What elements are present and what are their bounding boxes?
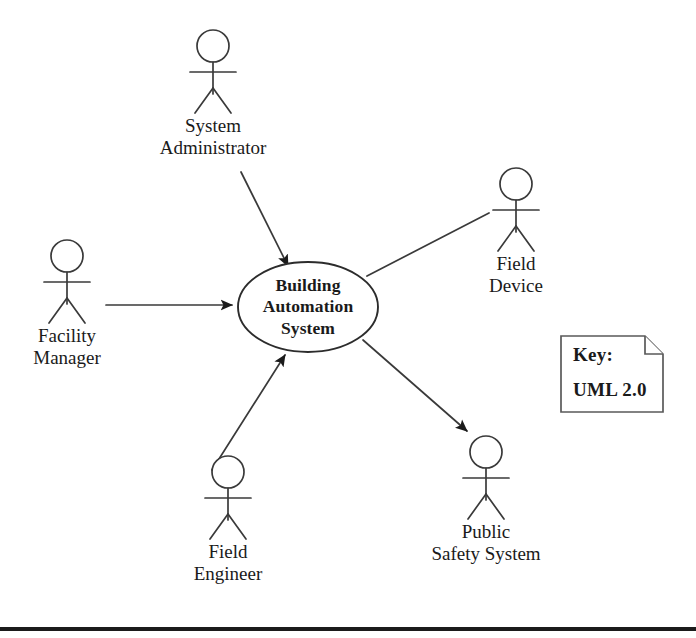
note-key-title: Key: bbox=[573, 344, 613, 366]
actor-figure-field-device[interactable] bbox=[493, 168, 539, 251]
use-case-label: Building Automation System bbox=[238, 275, 378, 339]
connector-system-to-public-safety-system[interactable] bbox=[363, 340, 467, 431]
footer-rule bbox=[0, 627, 696, 631]
actor-figure-public-safety-system[interactable] bbox=[463, 436, 509, 519]
actor-label-field-engineer: Field Engineer bbox=[128, 541, 328, 585]
actor-figure-facility-manager[interactable] bbox=[44, 240, 90, 323]
connector-system-administrator-to-system[interactable] bbox=[241, 172, 288, 266]
uml-use-case-diagram: Building Automation System System Admini… bbox=[0, 0, 696, 638]
actor-label-facility-manager: Facility Manager bbox=[0, 325, 167, 369]
connector-field-engineer-to-system[interactable] bbox=[212, 355, 285, 470]
actor-figure-field-engineer[interactable] bbox=[205, 456, 251, 539]
actor-label-field-device: Field Device bbox=[416, 253, 616, 297]
actor-label-system-administrator: System Administrator bbox=[113, 115, 313, 159]
actor-label-public-safety-system: Public Safety System bbox=[386, 521, 586, 565]
actor-figure-system-administrator[interactable] bbox=[190, 30, 236, 113]
note-key-body: UML 2.0 bbox=[573, 379, 647, 401]
